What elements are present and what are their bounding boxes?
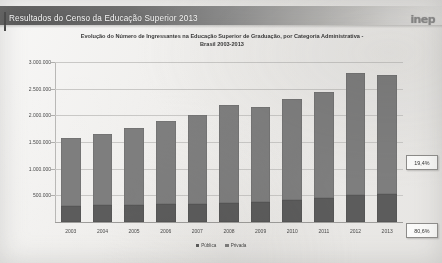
scanned-slide-page: Resultados do Censo da Educação Superior… (0, 0, 442, 263)
bar-segment-privada (282, 99, 302, 199)
bar-segment-privada (314, 92, 334, 198)
bar-group (61, 138, 81, 222)
bar-segment-publica (251, 202, 271, 222)
y-axis-tick-mark (51, 115, 55, 116)
bar-group (93, 134, 113, 222)
legend-swatch-icon (225, 244, 229, 248)
legend-label: Pública (201, 243, 216, 248)
y-axis-tick-mark (51, 195, 55, 196)
x-axis-tick-label: 2011 (308, 228, 340, 234)
annotation-share-publica-text: 80,6% (414, 228, 429, 234)
bar-group (124, 128, 144, 222)
x-axis-tick-label: 2009 (245, 228, 277, 234)
gridline (55, 62, 403, 63)
bar-group (282, 99, 302, 222)
x-axis-tick-label: 2006 (150, 228, 182, 234)
bar-segment-publica (282, 200, 302, 222)
bar-segment-privada (377, 75, 397, 194)
bar-segment-publica (219, 203, 239, 222)
bar-segment-privada (93, 134, 113, 205)
chart-legend: PúblicaPrivada (8, 243, 434, 248)
bar-segment-publica (124, 205, 144, 222)
chart-title-line-1: Evolução do Número de Ingressantes na Ed… (36, 32, 408, 40)
bar-group (188, 115, 208, 222)
x-axis-tick-label: 2004 (87, 228, 119, 234)
chart-title-line-2: Brasil 2003-2013 (36, 40, 408, 48)
y-axis-tick-label: 3.000.000 (29, 59, 51, 65)
bar-segment-publica (314, 198, 334, 222)
x-axis-line (55, 222, 403, 223)
chart-title: Evolução do Número de Ingressantes na Ed… (36, 32, 408, 48)
bar-group (346, 73, 366, 222)
bar-segment-publica (156, 204, 176, 222)
bar-segment-publica (93, 205, 113, 222)
page-title: Resultados do Censo da Educação Superior… (9, 14, 198, 23)
x-axis-tick-label: 2007 (182, 228, 214, 234)
x-axis-tick-label: 2008 (213, 228, 245, 234)
y-axis-tick-mark (51, 89, 55, 90)
y-axis-tick-label: 1.000.000 (29, 166, 51, 172)
legend-item: Pública (196, 243, 217, 248)
annotation-share-publica: 80,6% (406, 223, 438, 238)
bar-segment-publica (61, 206, 81, 222)
bar-group (314, 92, 334, 222)
bar-group (156, 121, 176, 222)
bar-segment-privada (219, 105, 239, 203)
bar-group (251, 107, 271, 222)
annotation-share-privada: 19,4% (406, 155, 438, 170)
bar-segment-publica (377, 194, 397, 222)
y-axis-tick-label: 2.500.000 (29, 86, 51, 92)
header-shadow (0, 25, 442, 28)
bar-segment-publica (188, 204, 208, 222)
bar-segment-privada (156, 121, 176, 204)
bar-group (219, 105, 239, 222)
bar-segment-privada (346, 73, 366, 196)
legend-label: Privada (231, 243, 247, 248)
plot-area (55, 62, 403, 222)
bar-group (377, 75, 397, 222)
chart-container: Evolução do Número de Ingressantes na Ed… (8, 29, 434, 257)
bar-segment-publica (346, 195, 366, 222)
bar-segment-privada (251, 107, 271, 201)
bar-segment-privada (188, 115, 208, 204)
y-axis-tick-label: 1.500.000 (29, 139, 51, 145)
y-axis-tick-mark (51, 142, 55, 143)
annotation-share-privada-text: 19,4% (414, 160, 429, 166)
x-axis-tick-label: 2005 (118, 228, 150, 234)
y-axis-tick-label: 2.000.000 (29, 112, 51, 118)
y-axis-tick-mark (51, 169, 55, 170)
bar-segment-privada (61, 138, 81, 206)
y-axis-tick-mark (51, 62, 55, 63)
header-accent-stripe (4, 12, 6, 31)
x-axis-tick-label: 2003 (55, 228, 87, 234)
x-axis-tick-label: 2013 (371, 228, 403, 234)
x-axis-tick-label: 2012 (340, 228, 372, 234)
bar-segment-privada (124, 128, 144, 205)
legend-swatch-icon (196, 244, 200, 248)
y-axis-tick-label: 500.000 (33, 192, 51, 198)
legend-item: Privada (225, 243, 246, 248)
header-bar: Resultados do Censo da Educação Superior… (0, 6, 442, 25)
x-axis-tick-label: 2010 (276, 228, 308, 234)
